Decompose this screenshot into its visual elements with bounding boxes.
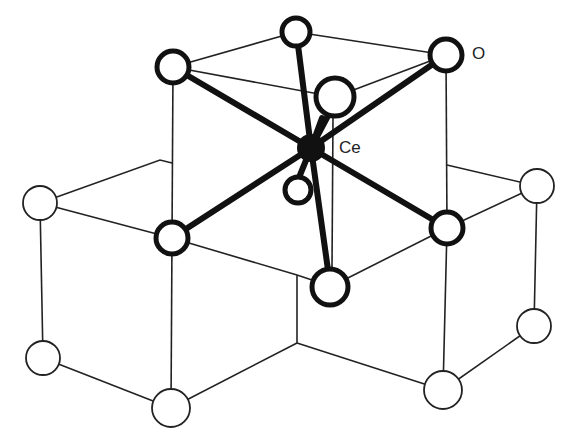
oxygen-atom-top-right <box>430 39 462 71</box>
lattice-oxygen-atoms <box>23 169 554 427</box>
oxygen-atom-top-center <box>282 18 310 46</box>
oxygen-atom-mid-right <box>431 212 463 244</box>
cerium-label: Ce <box>339 139 361 156</box>
oxygen-atom-right-lower <box>517 309 551 343</box>
oxygen-atom-back-lower <box>285 177 311 203</box>
crystal-structure-diagram <box>0 0 574 441</box>
oxygen-atom-far-right <box>520 169 554 203</box>
oxygen-atom-front-lower <box>312 269 348 305</box>
oxygen-atom-far-left <box>23 186 57 220</box>
oxygen-atom-mid-left <box>156 222 188 254</box>
oxygen-atom-front-upper <box>316 78 354 116</box>
oxygen-atom-bottom-center <box>152 389 190 427</box>
oxygen-label: O <box>472 45 485 62</box>
oxygen-atom-top-left <box>157 51 189 83</box>
oxygen-atom-bottom-right <box>424 371 462 409</box>
oxygen-atom-bottom-left <box>26 341 60 375</box>
